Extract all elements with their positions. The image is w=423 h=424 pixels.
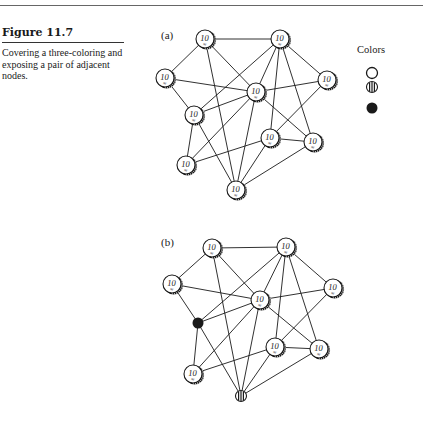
coin-symbol: ≈ (191, 117, 195, 123)
coin-symbol: ≈ (283, 249, 287, 255)
coin-node: 10≈ (251, 291, 271, 311)
coin-symbol: ≈ (253, 94, 257, 100)
graph-edge (198, 247, 286, 323)
graph-panel-a: 10≈10≈10≈10≈10≈10≈10≈10≈10≈10≈ (156, 30, 338, 201)
graph-edge (194, 115, 236, 190)
graph-edge (205, 39, 236, 190)
graph-figure: 10≈10≈10≈10≈10≈10≈10≈10≈10≈10≈ 10≈10≈10≈… (0, 0, 423, 424)
coin-node: 10≈ (203, 239, 223, 259)
coin-node: 10≈ (247, 83, 267, 103)
coin-node: 10≈ (184, 365, 204, 385)
coin-node: 10≈ (304, 133, 324, 153)
coin-symbol: ≈ (267, 140, 271, 146)
coin-node: 10≈ (185, 106, 205, 126)
coin-symbol: ≈ (190, 376, 194, 382)
coin-symbol: ≈ (330, 290, 334, 296)
coin-symbol: ≈ (324, 82, 328, 88)
graph-edge (275, 288, 333, 347)
coin-symbol: ≈ (257, 302, 261, 308)
coin-symbol: ≈ (277, 41, 281, 47)
coin-node: 10≈ (310, 340, 330, 360)
graph-edge (236, 142, 313, 190)
graph-edge (260, 288, 333, 300)
graph-edge (165, 78, 256, 92)
coin-symbol: ≈ (233, 192, 237, 198)
graph-edge (286, 247, 319, 349)
coin-node: 10≈ (261, 129, 281, 149)
color-legend (367, 68, 378, 114)
black-node (367, 103, 378, 114)
striped-node (236, 391, 247, 402)
coin-node: 10≈ (156, 69, 176, 89)
coin-symbol: ≈ (202, 41, 206, 47)
coin-node: 10≈ (277, 238, 297, 258)
coin-node: 10≈ (227, 181, 247, 201)
legend-title: Colors (357, 44, 385, 55)
graph-edge (198, 300, 260, 323)
coin-node: 10≈ (177, 156, 197, 176)
coin-node: 10≈ (271, 30, 291, 50)
graph-edge (198, 323, 241, 396)
coin-symbol: ≈ (209, 250, 213, 256)
coin-symbol: ≈ (316, 351, 320, 357)
coin-symbol: ≈ (183, 167, 187, 173)
coin-symbol: ≈ (169, 286, 173, 292)
black-node (193, 318, 204, 329)
coin-node: 10≈ (163, 275, 183, 295)
graph-edge (212, 248, 241, 396)
striped-node (367, 82, 378, 93)
graph-panel-b: 10≈10≈10≈10≈10≈10≈10≈10≈ (163, 238, 344, 402)
white-node (367, 68, 378, 79)
graph-edge (212, 247, 286, 248)
coin-node: 10≈ (318, 71, 338, 91)
coin-symbol: ≈ (272, 349, 276, 355)
coin-node: 10≈ (196, 30, 216, 50)
coin-symbol: ≈ (162, 80, 166, 86)
coin-node: 10≈ (324, 279, 344, 299)
coin-node: 10≈ (266, 338, 286, 358)
graph-edge (280, 39, 313, 142)
graph-edge (172, 284, 260, 300)
coin-symbol: ≈ (310, 144, 314, 150)
